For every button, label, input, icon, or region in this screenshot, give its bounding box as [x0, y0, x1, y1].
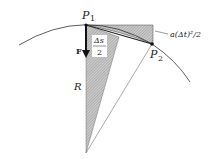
arc-half-numerator: Δs — [93, 36, 104, 45]
point-p1-dot — [84, 23, 87, 26]
point-p1-subscript: 1 — [90, 14, 95, 23]
displacement-pointer — [155, 31, 168, 34]
radius-label: R — [73, 81, 82, 92]
displacement-label: a(Δt)²/2 — [170, 30, 201, 39]
force-label: F — [76, 46, 82, 56]
point-p1-label: P — [81, 9, 90, 22]
point-p2-dot — [150, 42, 154, 46]
arc-half-denominator: 2 — [97, 48, 102, 57]
circular-motion-diagram: Δs 2 F P 1 P 2 a(Δt)²/2 R — [0, 0, 218, 159]
point-p2-subscript: 2 — [158, 54, 163, 63]
point-p2-label: P — [149, 48, 158, 61]
